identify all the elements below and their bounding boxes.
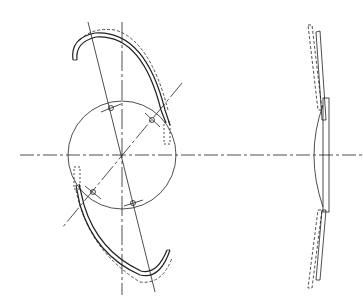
haptic-lower-solid — [316, 210, 326, 280]
upper-haptic — [73, 29, 170, 144]
diagonal-axis-steep — [88, 22, 155, 292]
front-view — [20, 22, 363, 295]
haptic-upper-dashed — [308, 25, 322, 110]
lower-haptic — [74, 167, 172, 282]
haptic-lower-dashed — [308, 210, 322, 288]
lens-drawing — [0, 0, 363, 303]
side-view — [308, 25, 329, 288]
